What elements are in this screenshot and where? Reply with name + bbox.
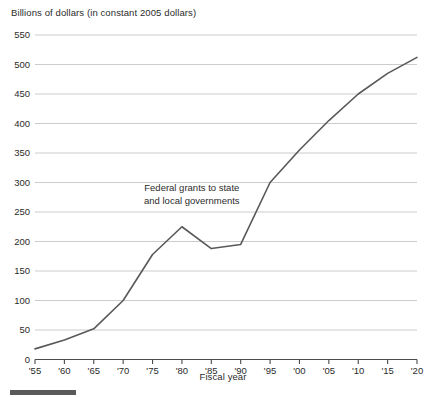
y-tick-label: 300	[2, 177, 30, 188]
y-tick-label: 100	[2, 295, 30, 306]
x-axis-title: Fiscal year	[0, 371, 446, 382]
chart-figure: Billions of dollars (in constant 2005 do…	[0, 0, 446, 397]
y-tick-label: 350	[2, 147, 30, 158]
annotation-line-2: and local governments	[144, 195, 240, 208]
y-tick-label: 450	[2, 88, 30, 99]
y-tick-label: 0	[2, 354, 30, 365]
x-tick-marks	[35, 360, 417, 365]
annotation-line-1: Federal grants to state	[144, 182, 240, 195]
y-tick-label: 400	[2, 118, 30, 129]
y-tick-label: 200	[2, 236, 30, 247]
y-tick-label: 550	[2, 29, 30, 40]
y-tick-label: 50	[2, 324, 30, 335]
series-annotation-label: Federal grants to state and local govern…	[144, 182, 240, 207]
footer-accent-bar	[10, 390, 76, 395]
y-tick-label: 250	[2, 206, 30, 217]
y-tick-label: 150	[2, 265, 30, 276]
y-tick-label: 500	[2, 59, 30, 70]
